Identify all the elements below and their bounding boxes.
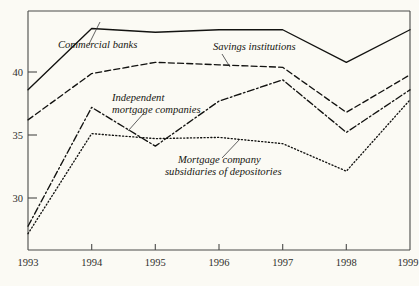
x-tick-label-1998: 1998 xyxy=(336,257,357,268)
y-tick-label-30: 30 xyxy=(13,193,24,204)
chart-footnote xyxy=(6,277,416,286)
y-tick-label-35: 35 xyxy=(13,130,24,141)
label-independent-mortgage-companies-line1: Independent xyxy=(111,92,165,103)
series-savings-institutions xyxy=(28,62,410,120)
label-savings-institutions: Savings institutions xyxy=(213,41,296,52)
x-tick-label-1995: 1995 xyxy=(145,257,166,268)
data-series-group xyxy=(28,29,410,234)
x-tick-label-1996: 1996 xyxy=(209,257,230,268)
x-tick-label-1994: 1994 xyxy=(81,257,103,268)
x-tick-label-1999: 1999 xyxy=(398,257,419,268)
annotation-labels: Commercial banks Savings institutions In… xyxy=(58,39,296,177)
label-mortgage-company-subsidiaries-line2: subsidiaries of depositories xyxy=(165,166,282,177)
leader-independent-mortgage-companies xyxy=(128,113,144,131)
label-mortgage-company-subsidiaries-line1: Mortgage company xyxy=(177,154,261,165)
label-independent-mortgage-companies-line2: mortgage companies xyxy=(112,104,201,115)
series-commercial-banks xyxy=(28,29,410,90)
label-commercial-banks: Commercial banks xyxy=(58,39,137,50)
x-tick-label-1997: 1997 xyxy=(272,257,293,268)
y-tick-label-40: 40 xyxy=(13,67,24,78)
x-tick-label-1993: 1993 xyxy=(18,257,39,268)
chart-figure: 40 35 30 1993 1994 1995 1996 1997 1998 1… xyxy=(0,0,419,286)
y-axis-ticks: 40 35 30 xyxy=(13,67,38,204)
line-chart: 40 35 30 1993 1994 1995 1996 1997 1998 1… xyxy=(0,0,419,286)
x-axis-ticks: 1993 1994 1995 1996 1997 1998 1999 xyxy=(18,244,419,268)
